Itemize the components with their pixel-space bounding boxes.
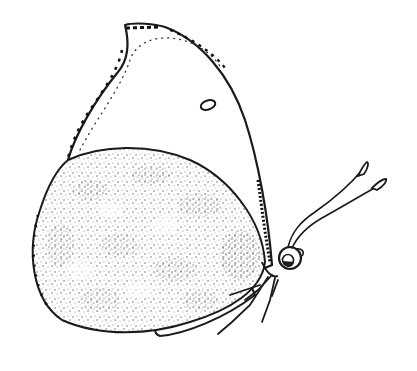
antennae bbox=[288, 162, 386, 248]
butterfly-illustration bbox=[0, 0, 417, 371]
head bbox=[279, 247, 303, 269]
